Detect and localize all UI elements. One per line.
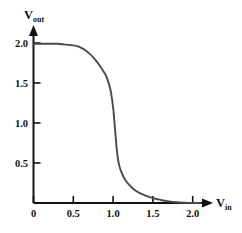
x-tick-label: 1.5: [146, 208, 159, 219]
y-tick-label: 1.5: [15, 78, 28, 89]
x-tick-label: 0.5: [67, 208, 80, 219]
x-tick-label: 0: [31, 208, 36, 219]
vtc-plot-svg: 0 0.5 1.0 1.5 2.0 0.5 1.0 1.5 2.0 V out …: [0, 0, 242, 233]
x-axis-title-base: V: [216, 196, 225, 210]
x-axis-title-subscript: in: [225, 203, 232, 212]
y-tick-label: 0.5: [15, 158, 28, 169]
y-tick-label: 2.0: [15, 38, 28, 49]
y-axis-title-base: V: [24, 8, 33, 22]
x-tick-label: 2.0: [186, 208, 199, 219]
y-axis-title-subscript: out: [33, 15, 44, 24]
x-tick-label: 1.0: [107, 208, 120, 219]
vtc-chart: 0 0.5 1.0 1.5 2.0 0.5 1.0 1.5 2.0 V out …: [0, 0, 242, 233]
y-tick-label: 1.0: [15, 118, 28, 129]
